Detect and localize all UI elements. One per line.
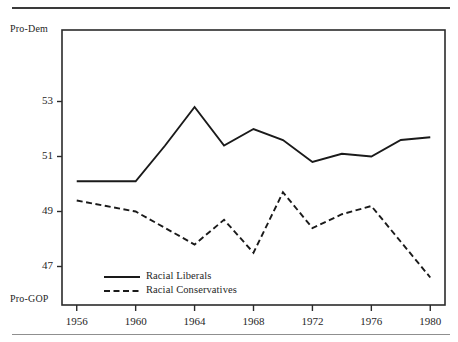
x-axis-tick-label: 1972 — [292, 315, 332, 327]
x-axis-tick-label: 1980 — [410, 315, 450, 327]
data-series-group — [77, 107, 431, 278]
plot-area: Pro-Dem Pro-GOP 53514947 195619601964196… — [0, 0, 458, 342]
x-axis-tick-label: 1968 — [234, 315, 274, 327]
y-axis-top-endpoint-label: Pro-Dem — [10, 23, 48, 34]
plot-frame — [62, 30, 445, 305]
x-axis-tick-label: 1956 — [57, 315, 97, 327]
legend-sample-lines — [104, 277, 140, 291]
x-axis-ticks — [77, 305, 431, 311]
series-line-racial-conservatives — [77, 192, 431, 277]
series-line-racial-liberals — [77, 107, 431, 181]
y-axis-tick-label: 53 — [27, 94, 53, 106]
x-axis-tick-label: 1976 — [351, 315, 391, 327]
figure-container: Pro-Dem Pro-GOP 53514947 195619601964196… — [0, 0, 458, 342]
y-axis-tick-label: 51 — [27, 149, 53, 161]
y-axis-tick-label: 47 — [27, 259, 53, 271]
legend-label-racial-conservatives: Racial Conservatives — [146, 284, 237, 295]
y-axis-bottom-endpoint-label: Pro-GOP — [10, 293, 49, 304]
legend-label-racial-liberals: Racial Liberals — [146, 270, 211, 281]
y-axis-tick-label: 49 — [27, 204, 53, 216]
x-axis-tick-label: 1964 — [175, 315, 215, 327]
x-axis-tick-label: 1960 — [116, 315, 156, 327]
